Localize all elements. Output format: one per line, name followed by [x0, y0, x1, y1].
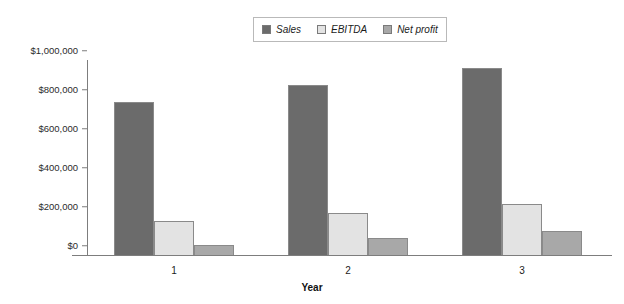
y-axis-tick: $0: [67, 241, 87, 251]
legend-entry-ebitda[interactable]: EBITDA: [317, 25, 367, 35]
x-axis-line: [72, 255, 612, 256]
y-axis-tick-label: $1,000,000: [30, 46, 78, 56]
legend-entry-net-profit[interactable]: Net profit: [383, 25, 438, 35]
y-axis-tick: $800,000: [38, 85, 87, 95]
y-axis-tick: $1,000,000: [30, 46, 87, 56]
y-axis-tick: $200,000: [38, 202, 87, 212]
legend-label: Sales: [276, 25, 301, 35]
y-axis-tick-label: $0: [67, 241, 78, 251]
bar-ebitda-3[interactable]: [502, 204, 542, 255]
plot-area: $0$200,000$400,000$600,000$800,000$1,000…: [87, 60, 609, 255]
bar-group-3: [462, 60, 582, 255]
y-axis-tick-mark: [82, 89, 87, 90]
legend-swatch-icon: [317, 25, 326, 34]
legend-label: Net profit: [397, 25, 438, 35]
y-axis-tick: $600,000: [38, 124, 87, 134]
y-axis-tick-label: $800,000: [38, 85, 78, 95]
y-axis-tick: $400,000: [38, 163, 87, 173]
x-axis-category-label: 1: [171, 266, 177, 276]
bar-sales-2[interactable]: [288, 85, 328, 255]
y-axis-tick-mark: [82, 167, 87, 168]
y-axis-tick-label: $400,000: [38, 163, 78, 173]
y-axis-tick-mark: [82, 206, 87, 207]
bar-group-1: [114, 60, 234, 255]
legend-swatch-icon: [262, 25, 271, 34]
bar-group-2: [288, 60, 408, 255]
bar-ebitda-2[interactable]: [328, 213, 368, 255]
bar-chart: SalesEBITDANet profit $0$200,000$400,000…: [0, 0, 624, 304]
x-axis-category-label: 2: [345, 266, 351, 276]
y-axis-tick-mark: [82, 128, 87, 129]
y-axis-tick-mark: [82, 50, 87, 51]
y-axis-tick-label: $200,000: [38, 202, 78, 212]
y-axis-tick-mark: [82, 245, 87, 246]
x-axis-title: Year: [0, 283, 624, 293]
y-axis-tick-label: $600,000: [38, 124, 78, 134]
bar-net-profit-3[interactable]: [542, 231, 582, 255]
bar-net-profit-2[interactable]: [368, 238, 408, 255]
bar-sales-3[interactable]: [462, 68, 502, 255]
bar-sales-1[interactable]: [114, 102, 154, 255]
legend-swatch-icon: [383, 25, 392, 34]
chart-legend: SalesEBITDANet profit: [253, 17, 447, 42]
x-axis-category-label: 3: [519, 266, 525, 276]
bar-net-profit-1[interactable]: [194, 245, 234, 255]
legend-entry-sales[interactable]: Sales: [262, 25, 301, 35]
bar-ebitda-1[interactable]: [154, 221, 194, 255]
legend-label: EBITDA: [331, 25, 367, 35]
